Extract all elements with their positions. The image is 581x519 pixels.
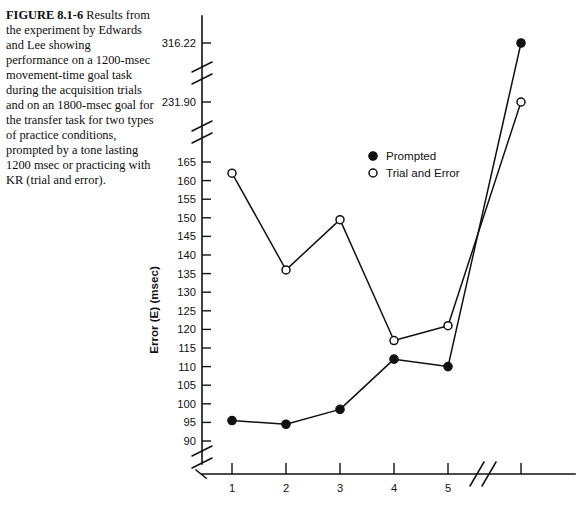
data-point-1-2	[282, 420, 290, 428]
y-tick-label: 125	[177, 305, 196, 317]
y-tick-label: 115	[178, 342, 196, 354]
data-point-1-6	[517, 39, 525, 47]
y-tick-label: 150	[177, 212, 196, 224]
data-point-1-5	[444, 362, 452, 370]
y-tick-label: 316.22	[162, 37, 196, 49]
y-tick-label: 110	[178, 361, 196, 373]
y-axis-title: Error (E) (msec)	[147, 266, 160, 354]
y-tick-label: 231.90	[162, 96, 196, 108]
data-point-2-5	[444, 322, 452, 330]
x-tick-label: 3	[337, 482, 343, 494]
y-tick-label: 105	[177, 379, 196, 391]
data-point-2-3	[336, 216, 344, 224]
legend-marker-open-circle	[369, 169, 377, 177]
figure-plot: 9095100105110115120125130135140145150155…	[0, 0, 581, 519]
x-tick-label: 4	[391, 482, 397, 494]
data-point-2-1	[228, 169, 236, 177]
chart-legend: PromptedTrial and Error	[369, 149, 460, 179]
legend-marker-filled-circle	[369, 152, 377, 160]
series-line-2	[232, 102, 521, 341]
data-point-1-1	[228, 416, 236, 424]
data-point-2-6	[517, 98, 525, 106]
y-tick-label: 95	[184, 416, 196, 428]
y-tick-label: 165	[177, 156, 196, 168]
y-tick-label: 160	[177, 175, 196, 187]
y-tick-label: 135	[177, 268, 196, 280]
legend-label-2: Trial and Error	[386, 166, 460, 179]
y-axis-ticks: 9095100105110115120125130135140145150155…	[162, 37, 211, 447]
y-tick-label: 130	[177, 286, 196, 298]
y-tick-label: 90	[184, 435, 196, 447]
x-tick-label: 2	[283, 482, 289, 494]
data-point-1-3	[336, 405, 344, 413]
x-tick-label: 5	[445, 482, 451, 494]
y-tick-label: 145	[177, 230, 196, 242]
data-point-2-2	[282, 266, 290, 274]
chart-svg: 9095100105110115120125130135140145150155…	[0, 0, 581, 519]
y-tick-label: 140	[177, 249, 196, 261]
y-tick-label: 155	[177, 193, 196, 205]
data-series-layer	[228, 39, 525, 429]
axis-lines	[196, 16, 575, 478]
x-tick-label: 1	[229, 482, 235, 494]
y-tick-label: 100	[177, 398, 196, 410]
x-axis-ticks: 12345	[229, 463, 521, 494]
legend-label-1: Prompted	[386, 149, 436, 162]
data-point-2-4	[390, 337, 398, 345]
y-tick-label: 120	[177, 323, 196, 335]
data-point-1-4	[390, 355, 398, 363]
